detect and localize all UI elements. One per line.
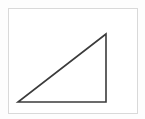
figure-canvas [0,0,145,119]
figure-container: Right triangle diagram [0,0,145,119]
figure-border [9,9,138,114]
